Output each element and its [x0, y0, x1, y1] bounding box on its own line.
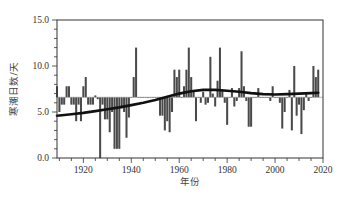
bar [212, 94, 214, 98]
bar [226, 97, 228, 125]
cold-wave-days-chart: 0.05.010.015.0 192019401960198020002020 … [0, 0, 346, 202]
bar [78, 97, 80, 104]
bar [61, 97, 63, 104]
y-tick-label: 15.0 [32, 15, 49, 25]
bar [133, 77, 135, 97]
bar [109, 97, 111, 132]
y-tick-label: 0.0 [37, 153, 49, 163]
y-tick-label: 10.0 [32, 61, 49, 71]
bar [207, 97, 209, 103]
bar [169, 97, 171, 132]
bar [171, 97, 173, 112]
bar [164, 97, 166, 130]
bar [66, 86, 68, 97]
bar [135, 48, 137, 98]
bar [173, 70, 175, 98]
x-axis-title: 年份 [180, 176, 200, 187]
bar [236, 97, 238, 101]
bar [296, 97, 298, 115]
bar [161, 97, 163, 115]
bar [190, 77, 192, 97]
bar [188, 48, 190, 98]
bar [200, 97, 202, 103]
x-tick-label: 1920 [74, 165, 93, 175]
bar [202, 92, 204, 98]
trend-line [57, 90, 318, 116]
bar [70, 97, 72, 104]
bar [224, 97, 226, 103]
bar [68, 86, 70, 97]
x-tick-label: 1940 [122, 165, 141, 175]
bar [82, 86, 84, 97]
bar [279, 97, 281, 103]
x-tick-label: 2020 [314, 165, 333, 175]
bar [291, 97, 293, 130]
y-axis: 0.05.010.015.0 [32, 15, 57, 163]
bar [284, 97, 286, 112]
x-tick-label: 1980 [218, 165, 237, 175]
bar [128, 97, 130, 117]
bar [281, 97, 283, 128]
bar [102, 97, 104, 104]
bar [85, 77, 87, 97]
bar [205, 97, 207, 104]
bar-series [56, 48, 319, 158]
bar [241, 51, 243, 97]
x-tick-label: 2000 [266, 165, 285, 175]
bar [118, 97, 120, 149]
bar [87, 97, 89, 104]
bar [113, 97, 115, 149]
bar [308, 97, 310, 101]
bar [231, 88, 233, 97]
bar [214, 97, 216, 106]
bar [116, 97, 118, 149]
bar [269, 97, 271, 101]
bar [63, 97, 65, 104]
bar [233, 97, 235, 106]
y-tick-label: 5.0 [37, 107, 49, 117]
y-axis-title: 寒潮日数/天 [8, 62, 19, 115]
bar [75, 97, 77, 121]
bar [58, 97, 60, 112]
bar [303, 97, 305, 110]
x-axis: 192019401960198020002020 [59, 158, 332, 175]
bar [298, 97, 300, 104]
bar [245, 97, 247, 101]
bar [193, 92, 195, 98]
bar [73, 97, 75, 104]
bar [90, 97, 92, 104]
bar [92, 97, 94, 104]
bar [99, 97, 101, 158]
bar [248, 97, 250, 126]
bar [315, 77, 317, 97]
bar [80, 97, 82, 121]
bar [123, 97, 125, 112]
bar [209, 57, 211, 97]
bar [300, 97, 302, 134]
bar [250, 97, 252, 126]
bar [125, 97, 127, 137]
x-tick-label: 1960 [170, 165, 189, 175]
bar [166, 97, 168, 121]
bar [195, 97, 197, 121]
plot-frame [57, 20, 323, 158]
